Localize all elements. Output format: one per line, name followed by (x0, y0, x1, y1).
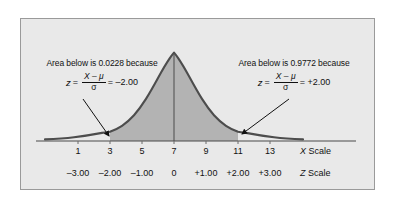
z-tick-label: –1.00 (131, 168, 154, 178)
x-tick-label: 3 (107, 146, 112, 156)
z-tick-label: +1.00 (195, 168, 218, 178)
z-axis-label: Z Scale (300, 168, 331, 178)
left-fraction-numerator: X – μ (82, 72, 106, 82)
right-formula-result: = +2.00 (300, 77, 331, 87)
left-annotation: Area below is 0.0228 because z = X – μ σ… (26, 58, 178, 93)
right-fraction-numerator: X – μ (274, 72, 298, 82)
z-tick-label: +2.00 (227, 168, 250, 178)
x-tick-label: 5 (139, 146, 144, 156)
left-formula-result: = –2.00 (108, 77, 138, 87)
left-z-formula: z = X – μ σ = –2.00 (26, 72, 178, 93)
left-fraction-denominator: σ (89, 83, 98, 93)
right-fraction: X – μ σ (274, 72, 298, 93)
right-callout-arrow (242, 99, 289, 134)
right-annotation: Area below is 0.9772 because z = X – μ σ… (218, 58, 370, 93)
normal-distribution-figure: Area below is 0.0228 because z = X – μ σ… (0, 0, 395, 203)
z-axis-label-word: Scale (308, 168, 331, 178)
left-z-symbol: z (66, 77, 71, 88)
x-tick-label: 7 (171, 146, 176, 156)
left-equals-sign: = (73, 77, 78, 87)
x-axis-label: X Scale (300, 146, 331, 156)
z-tick-label: 0 (171, 168, 176, 178)
left-fraction: X – μ σ (82, 72, 106, 93)
right-z-formula: z = X – μ σ = +2.00 (218, 72, 370, 93)
x-tick-label: 9 (203, 146, 208, 156)
right-annotation-title: Area below is 0.9772 because (218, 58, 370, 68)
left-callout-arrow (83, 99, 109, 136)
right-fraction-denominator: σ (281, 83, 290, 93)
right-equals-sign: = (265, 77, 270, 87)
x-tick-label: 11 (233, 146, 242, 156)
x-axis-label-word: Scale (309, 146, 332, 156)
z-tick-label: –2.00 (99, 168, 122, 178)
z-tick-label: +3.00 (259, 168, 282, 178)
x-tick-label: 13 (265, 146, 275, 156)
x-tick-label: 1 (75, 146, 80, 156)
left-annotation-title: Area below is 0.0228 because (26, 58, 178, 68)
z-tick-label: –3.00 (67, 168, 90, 178)
right-z-symbol: z (258, 77, 263, 88)
